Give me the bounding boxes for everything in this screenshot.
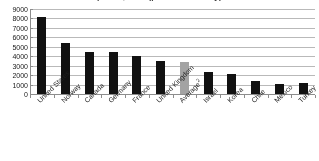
x-axis-labels: United StatesNorwayCanadaGermanyFranceUn… — [0, 99, 319, 161]
y-axis-tick-mark — [30, 47, 33, 48]
gridline — [30, 18, 315, 19]
y-axis-tick-label: 8000 — [0, 15, 28, 22]
chart-title: prices, USD (per resident-day) — [0, 0, 319, 1]
y-axis-tick-label: 3000 — [0, 62, 28, 69]
x-axis-tick-mark — [78, 95, 79, 98]
x-axis-tick-mark — [54, 95, 55, 98]
gridline — [30, 37, 315, 38]
y-axis-tick-mark — [30, 94, 33, 95]
x-axis-tick-mark — [291, 95, 292, 98]
bar-chart: prices, USD (per resident-day) 900080007… — [0, 0, 319, 161]
x-axis-tick-mark — [125, 95, 126, 98]
gridline — [30, 9, 315, 10]
y-axis-tick-label: 5000 — [0, 43, 28, 50]
gridline — [30, 28, 315, 29]
y-axis-tick-mark — [30, 85, 33, 86]
gridline — [30, 66, 315, 67]
x-axis-tick-mark — [220, 95, 221, 98]
y-axis-tick-label: 2000 — [0, 72, 28, 79]
y-axis-tick-mark — [30, 28, 33, 29]
y-axis-tick-mark — [30, 37, 33, 38]
y-axis-tick-label: 1000 — [0, 81, 28, 88]
y-axis-tick-label: 6000 — [0, 34, 28, 41]
y-axis-tick-mark — [30, 75, 33, 76]
gridline — [30, 47, 315, 48]
x-axis-tick-mark — [173, 95, 174, 98]
x-axis-tick-mark — [244, 95, 245, 98]
y-axis-tick-label: 4000 — [0, 53, 28, 60]
y-axis-tick-label: 7000 — [0, 24, 28, 31]
bar — [37, 17, 46, 94]
y-axis-tick-label: 0 — [0, 91, 28, 98]
y-axis-tick-label: 9000 — [0, 6, 28, 13]
gridline — [30, 56, 315, 57]
x-axis-tick-mark — [30, 95, 31, 98]
y-axis-tick-mark — [30, 66, 33, 67]
x-axis-tick-mark — [268, 95, 269, 98]
x-axis-tick-mark — [196, 95, 197, 98]
x-axis-tick-mark — [149, 95, 150, 98]
y-axis-tick-mark — [30, 9, 33, 10]
gridline — [30, 75, 315, 76]
y-axis-labels: 9000800070006000500040003000200010000 — [0, 9, 28, 94]
x-axis-tick-mark — [315, 95, 316, 98]
x-axis-tick-mark — [101, 95, 102, 98]
y-axis-tick-mark — [30, 56, 33, 57]
y-axis-tick-mark — [30, 18, 33, 19]
